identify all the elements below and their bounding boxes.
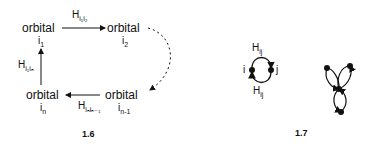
edge-label-hij-bottom: Hij [253, 86, 263, 100]
node-i-label: i [243, 65, 245, 75]
node-j-label: j [276, 65, 278, 75]
three-loop-graph [324, 63, 353, 115]
caption-1-6: 1.6 [82, 130, 95, 139]
diagram-canvas [0, 0, 371, 146]
edge-label-h-in-in-1: Hiₙiₙ₋₁ [78, 101, 101, 115]
edge-label-hij-top: Hij [252, 43, 262, 57]
edge-label-h-i1-i2: Hi₁i₂ [72, 10, 87, 24]
node-in-index: in [40, 103, 46, 117]
two-node-loop [249, 58, 274, 83]
node-i2-label: orbital [107, 22, 140, 34]
node-i1-label: orbital [22, 22, 55, 34]
node-in-1-index: in-1 [118, 103, 130, 117]
node-i1-index: i1 [38, 36, 44, 50]
node-in-label: orbital [26, 89, 59, 101]
dashed-arrow-i2-to-in-1 [148, 28, 170, 90]
edge-label-h-i1-in: Hi₁iₙ [18, 60, 34, 74]
node-in-1-label: orbital [105, 89, 138, 101]
node-i2-index: i2 [122, 36, 128, 50]
caption-1-7: 1.7 [295, 129, 308, 138]
